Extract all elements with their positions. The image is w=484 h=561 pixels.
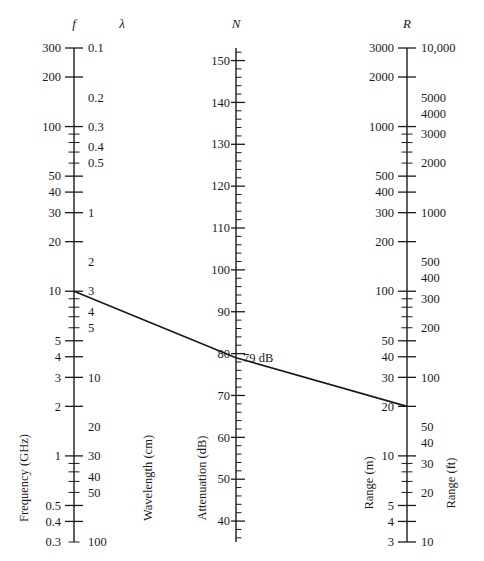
range-m-tick-label: 200 xyxy=(375,235,394,249)
wavelength-tick-label: 0.1 xyxy=(88,41,104,55)
range-m-tick-label: 400 xyxy=(375,185,394,199)
range-ft-tick-label: 50 xyxy=(421,420,434,434)
middle-axis-ticks xyxy=(231,52,245,538)
frequency-tick-label: 10 xyxy=(49,284,62,298)
wavelength-tick-label: 5 xyxy=(88,321,94,335)
attenuation-tick-label: 140 xyxy=(211,96,230,110)
frequency-tick-label: 2 xyxy=(55,400,61,414)
middle-axis-symbol-n: N xyxy=(231,16,242,31)
wavelength-tick-label: 1 xyxy=(88,206,94,220)
left-axis-name-frequency: Frequency (GHz) xyxy=(17,434,31,522)
attenuation-tick-label: 100 xyxy=(211,263,230,277)
attenuation-tick-label: 50 xyxy=(218,472,231,486)
frequency-tick-label: 5 xyxy=(55,334,61,348)
range-m-tick-label: 2000 xyxy=(369,70,394,84)
range-m-tick-label: 500 xyxy=(375,169,394,183)
frequency-tick-label: 100 xyxy=(42,120,61,134)
left-axis-name-wavelength: Wavelength (cm) xyxy=(141,435,155,521)
range-ft-tick-label: 1000 xyxy=(421,206,446,220)
range-ft-tick-label: 400 xyxy=(421,271,440,285)
nomogram-figure: 3002001005040302010543210.50.40.3 0.10.2… xyxy=(0,0,484,561)
right-axis-symbol-r: R xyxy=(402,16,411,31)
wavelength-tick-label: 0.4 xyxy=(88,140,104,154)
range-m-tick-label: 300 xyxy=(375,206,394,220)
attenuation-tick-label: 40 xyxy=(218,514,231,528)
wavelength-tick-label: 30 xyxy=(88,449,101,463)
wavelength-tick-label: 4 xyxy=(88,305,95,319)
attenuation-tick-label: 120 xyxy=(211,179,230,193)
range-m-tick-label: 1000 xyxy=(369,120,394,134)
frequency-tick-label: 0.5 xyxy=(45,499,61,513)
left-axis-wavelength-labels: 0.10.20.30.40.5123451020304050100 xyxy=(88,41,107,549)
range-m-tick-label: 5 xyxy=(388,499,394,513)
frequency-tick-label: 200 xyxy=(42,70,61,84)
frequency-tick-label: 40 xyxy=(49,185,62,199)
attenuation-tick-label: 90 xyxy=(218,305,231,319)
attenuation-tick-label: 60 xyxy=(218,431,231,445)
right-axis-name-range-ft: Range (ft) xyxy=(444,457,458,508)
range-ft-tick-label: 10,000 xyxy=(421,41,455,55)
left-axis-symbol-f: f xyxy=(72,16,78,31)
wavelength-tick-label: 20 xyxy=(88,420,101,434)
left-axis-symbol-lambda: λ xyxy=(118,16,125,31)
attenuation-tick-label: 130 xyxy=(211,137,230,151)
range-ft-tick-label: 30 xyxy=(421,457,434,471)
middle-axis-name-attenuation: Attenuation (dB) xyxy=(195,435,209,520)
range-ft-tick-label: 20 xyxy=(421,486,434,500)
right-axis-name-range-m: Range (m) xyxy=(362,456,376,509)
wavelength-tick-label: 100 xyxy=(88,535,107,549)
attenuation-tick-label: 70 xyxy=(218,389,231,403)
left-axis-frequency-labels: 3002001005040302010543210.50.40.3 xyxy=(42,41,62,549)
range-m-tick-label: 4 xyxy=(388,515,395,529)
range-m-tick-label: 100 xyxy=(375,284,394,298)
wavelength-tick-label: 10 xyxy=(88,371,101,385)
range-ft-tick-label: 4000 xyxy=(421,107,446,121)
frequency-tick-label: 20 xyxy=(49,235,62,249)
range-m-tick-label: 3 xyxy=(388,535,394,549)
range-ft-tick-label: 200 xyxy=(421,321,440,335)
frequency-tick-label: 30 xyxy=(49,206,62,220)
frequency-tick-label: 4 xyxy=(55,350,62,364)
wavelength-tick-label: 2 xyxy=(88,255,94,269)
attenuation-tick-label: 150 xyxy=(211,54,230,68)
wavelength-tick-label: 0.3 xyxy=(88,120,104,134)
frequency-tick-label: 3 xyxy=(55,371,61,385)
range-ft-tick-label: 40 xyxy=(421,436,434,450)
range-m-tick-label: 30 xyxy=(382,371,395,385)
range-ft-tick-label: 5000 xyxy=(421,91,446,105)
range-m-tick-label: 50 xyxy=(382,334,395,348)
range-ft-tick-label: 3000 xyxy=(421,127,446,141)
attenuation-annotation: 79 dB xyxy=(243,351,273,365)
index-line-segment-left xyxy=(74,291,236,358)
range-ft-tick-label: 500 xyxy=(421,255,440,269)
range-ft-tick-label: 300 xyxy=(421,292,440,306)
range-m-tick-label: 3000 xyxy=(369,41,394,55)
frequency-tick-label: 50 xyxy=(49,169,62,183)
middle-axis-labels: 150140130120110100908070605040 xyxy=(211,54,230,529)
wavelength-tick-label: 40 xyxy=(88,470,101,484)
index-line xyxy=(74,291,407,406)
range-m-tick-label: 40 xyxy=(382,350,395,364)
frequency-tick-label: 1 xyxy=(55,449,61,463)
range-ft-tick-label: 2000 xyxy=(421,156,446,170)
range-ft-tick-label: 100 xyxy=(421,371,440,385)
wavelength-tick-label: 3 xyxy=(88,284,94,298)
range-ft-tick-label: 10 xyxy=(421,535,434,549)
range-m-tick-label: 10 xyxy=(382,449,395,463)
frequency-tick-label: 0.3 xyxy=(45,535,61,549)
wavelength-tick-label: 0.2 xyxy=(88,91,104,105)
frequency-tick-label: 0.4 xyxy=(45,515,61,529)
frequency-tick-label: 300 xyxy=(42,41,61,55)
attenuation-tick-label: 110 xyxy=(212,221,230,235)
wavelength-tick-label: 0.5 xyxy=(88,156,104,170)
wavelength-tick-label: 50 xyxy=(88,486,101,500)
